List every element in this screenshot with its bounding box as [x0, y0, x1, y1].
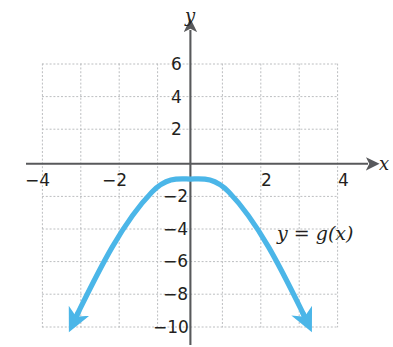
x-tick-label-2: 2	[261, 172, 272, 189]
x-tick-label-4: 4	[338, 172, 349, 189]
y-tick-label-2: 2	[171, 121, 182, 138]
coordinate-plane-svg	[0, 0, 393, 347]
y-axis-label: y	[185, 7, 195, 25]
x-axis-label: x	[379, 155, 389, 173]
y-tick-label--8: −8	[163, 286, 188, 303]
y-tick-label-6: 6	[171, 56, 182, 73]
curve-arrow-right	[302, 312, 307, 322]
parabola-graph-figure: y x −4 −2 2 4 6 4 2 −2 −4 −6 −8 −10 y = …	[0, 0, 393, 347]
y-tick-label--10: −10	[153, 319, 189, 336]
curve-arrow-left	[74, 312, 79, 322]
y-tick-label--6: −6	[163, 253, 188, 270]
curve-equation-label: y = g(x)	[277, 224, 353, 243]
x-tick-label--2: −2	[102, 172, 127, 189]
y-tick-label--2: −2	[163, 188, 188, 205]
y-tick-label-4: 4	[171, 89, 182, 106]
x-tick-label--4: −4	[25, 172, 50, 189]
y-tick-label--4: −4	[163, 221, 188, 238]
